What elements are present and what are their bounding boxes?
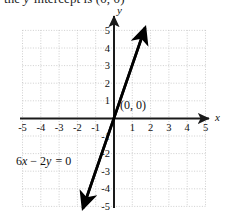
y-tick-label: -5: [101, 201, 110, 212]
eq-var-y: y: [45, 154, 52, 168]
x-tick-label: 5: [203, 122, 208, 133]
equation-label: 6x−2y= 0: [16, 154, 71, 168]
x-tick-label: 4: [185, 122, 191, 133]
x-tick-label: -4: [36, 122, 45, 133]
x-tick-label: -5: [18, 122, 27, 133]
x-axis-label: x: [214, 111, 220, 123]
graph-figure: the y-intercept is (0, 0): [0, 0, 227, 220]
x-tick-label: 2: [148, 122, 153, 133]
y-tick-label: 3: [105, 60, 110, 71]
header-caption: the y-intercept is (0, 0): [4, 0, 125, 7]
eq-minus: −: [30, 154, 37, 168]
header-suffix: -intercept is (0, 0): [29, 0, 124, 6]
y-tick-label: 2: [105, 78, 110, 89]
x-tick-label: -1: [91, 122, 100, 133]
y-tick-label: -4: [101, 183, 110, 194]
x-tick-label: -3: [55, 122, 64, 133]
y-tick-label: 1: [105, 95, 110, 106]
y-tick-label: 4: [105, 43, 111, 54]
x-tick-label: -2: [73, 122, 82, 133]
origin-point-label: (0, 0): [120, 98, 146, 112]
y-tick-label: -3: [101, 166, 110, 177]
x-tick-label: 1: [130, 122, 135, 133]
eq-var-x: x: [21, 154, 28, 168]
coordinate-plane: x y -5 -4 -3 -2 -1 1 2 3 4 5 5 4 3 2 1 -…: [0, 0, 227, 220]
eq-equals: = 0: [55, 154, 71, 168]
y-tick-label: 5: [105, 25, 110, 36]
x-tick-label: 3: [166, 122, 171, 133]
header-prefix: the: [4, 0, 24, 6]
